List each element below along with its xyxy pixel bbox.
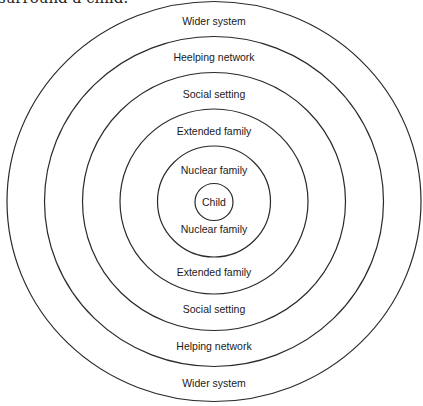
label-extended-family-top: Extended family [177, 125, 252, 137]
label-helping-network-bottom: Helping network [176, 340, 252, 352]
label-nuclear-family-bottom: Nuclear family [181, 223, 248, 235]
label-extended-family-bottom: Extended family [177, 266, 252, 278]
label-wider-system-top: Wider system [182, 15, 246, 27]
concentric-circles-diagram: Wider system Heelping network Social set… [0, 0, 423, 406]
label-social-setting-bottom: Social setting [183, 303, 246, 315]
label-social-setting-top: Social setting [183, 88, 246, 100]
label-nuclear-family-top: Nuclear family [181, 164, 248, 176]
label-helping-network-top: Heelping network [173, 51, 255, 63]
label-child: Child [202, 196, 226, 208]
label-wider-system-bottom: Wider system [182, 377, 246, 389]
